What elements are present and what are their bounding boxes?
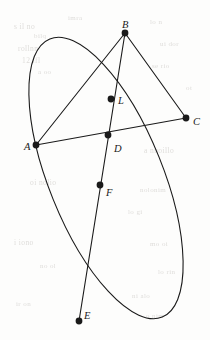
- ellipse-group: [0, 18, 210, 339]
- point-label-A: A: [24, 142, 30, 153]
- segment-B-A: [36, 33, 125, 145]
- segment-B-E: [79, 33, 125, 321]
- conic-ellipse: [0, 18, 210, 339]
- point-dot-L: [108, 96, 115, 103]
- point-dot-F: [97, 182, 104, 189]
- geometry-figure-canvas: s il nobilqrollnn12 ifla ooimralo nui do…: [0, 0, 210, 340]
- point-label-E: E: [84, 311, 90, 322]
- geometry-diagram: [0, 0, 210, 340]
- point-label-C: C: [193, 117, 200, 128]
- vertex-dots-group: [33, 30, 190, 325]
- point-dot-A: [33, 142, 40, 149]
- point-dot-E: [76, 318, 83, 325]
- segments-group: [36, 33, 186, 321]
- point-label-L: L: [118, 96, 124, 107]
- point-label-B: B: [122, 20, 128, 31]
- point-label-F: F: [106, 188, 112, 199]
- point-label-D: D: [114, 144, 122, 155]
- point-dot-D: [105, 132, 112, 139]
- point-dot-B: [122, 30, 129, 37]
- point-dot-C: [183, 115, 190, 122]
